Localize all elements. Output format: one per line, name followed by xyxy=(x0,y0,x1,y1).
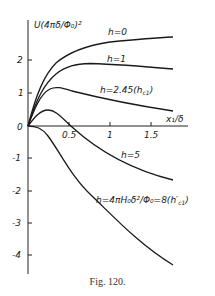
x-tick-label: 1 xyxy=(107,130,113,140)
curve-label-h5: h=5 xyxy=(121,150,140,160)
y-tick-label: -3 xyxy=(12,218,21,228)
x-tick-label: 0.5 xyxy=(62,130,77,140)
curve-label-h1: h=1 xyxy=(107,54,126,64)
curve-label-h2-45: h=2.45(hc1) xyxy=(100,85,153,96)
origin-label: 0 xyxy=(17,122,23,132)
x-tick-label: 1.5 xyxy=(144,130,159,140)
x-axis-label: x₁/δ xyxy=(165,114,184,124)
figure: 2 1 0 -1 -2 -3 -4 0.5 1 1.5 U(4πδ/Φ₀)² x… xyxy=(0,0,215,296)
curve-h0 xyxy=(28,37,173,126)
figure-caption: Fig. 120. xyxy=(0,276,215,287)
y-tick-label: -1 xyxy=(12,153,21,163)
chart: 2 1 0 -1 -2 -3 -4 0.5 1 1.5 U(4πδ/Φ₀)² x… xyxy=(0,0,215,296)
curve-h5 xyxy=(28,110,173,180)
x-ticks xyxy=(69,122,151,126)
curve-label-h0: h=0 xyxy=(108,27,127,37)
y-tick-label: -4 xyxy=(12,250,21,260)
y-tick-label: -2 xyxy=(12,186,21,196)
y-axis-label: U(4πδ/Φ₀)² xyxy=(34,20,82,30)
y-tick-label: 2 xyxy=(17,55,23,65)
y-tick-label: 1 xyxy=(18,88,24,98)
y-ticks xyxy=(28,60,32,255)
curve-label-h8: h=4πH₀δ²/Φ₀=8(h′c1) xyxy=(96,195,189,206)
